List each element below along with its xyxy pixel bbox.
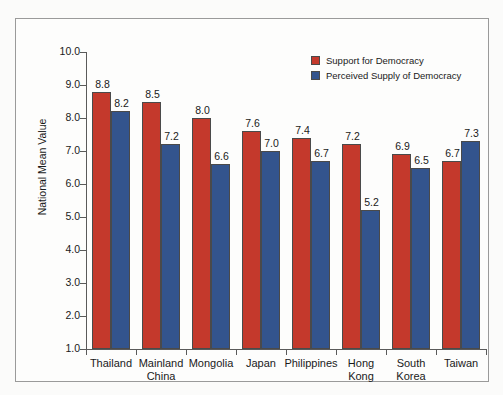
y-axis-tick-label: 10.0 bbox=[46, 46, 80, 57]
chart-legend: Support for Democracy Perceived Supply o… bbox=[311, 53, 461, 83]
y-axis-tick-label-wrap: 4.0 bbox=[40, 244, 80, 256]
y-axis-tick bbox=[80, 52, 87, 53]
x-axis-category-line: China bbox=[126, 370, 196, 383]
figure-root: National Mean Value 10.09.08.07.06.05.04… bbox=[0, 0, 503, 395]
bar-value-label: 7.2 bbox=[341, 131, 364, 142]
bar-value-label: 7.4 bbox=[291, 125, 314, 136]
y-axis-tick bbox=[80, 250, 87, 251]
y-axis-tick-label-wrap: 8.0 bbox=[40, 112, 80, 124]
y-axis-tick bbox=[80, 316, 87, 317]
x-axis-tick bbox=[486, 349, 487, 355]
x-axis-category-label: Taiwan bbox=[426, 357, 496, 370]
bar-perceived bbox=[261, 151, 280, 349]
y-axis-line bbox=[86, 52, 87, 350]
legend-item-support: Support for Democracy bbox=[311, 53, 461, 68]
bar-support bbox=[242, 131, 261, 349]
y-axis-tick-label: 5.0 bbox=[46, 211, 80, 222]
x-axis-tick bbox=[186, 349, 187, 355]
bar-value-label: 6.5 bbox=[410, 155, 433, 166]
bar-value-label: 8.0 bbox=[191, 105, 214, 116]
bar-value-label: 8.5 bbox=[141, 89, 164, 100]
y-axis-tick-label: 3.0 bbox=[46, 277, 80, 288]
bar-perceived bbox=[361, 210, 380, 349]
bar-value-label: 6.6 bbox=[210, 151, 233, 162]
y-axis-tick-label-wrap: 10.0 bbox=[40, 46, 80, 58]
y-axis-tick bbox=[80, 118, 87, 119]
bar-value-label: 8.2 bbox=[110, 98, 133, 109]
bar-support bbox=[442, 161, 461, 349]
bar-value-label: 5.2 bbox=[360, 197, 383, 208]
x-axis-tick bbox=[236, 349, 237, 355]
y-axis-tick-label-wrap: 7.0 bbox=[40, 145, 80, 157]
y-axis-tick-label: 8.0 bbox=[46, 112, 80, 123]
bar-perceived bbox=[161, 144, 180, 349]
y-axis-tick-label: 6.0 bbox=[46, 178, 80, 189]
y-axis-tick bbox=[80, 217, 87, 218]
x-axis-tick bbox=[386, 349, 387, 355]
x-axis-tick bbox=[336, 349, 337, 355]
x-axis-category-line: Taiwan bbox=[426, 357, 496, 370]
y-axis-tick bbox=[80, 85, 87, 86]
y-axis-tick-label: 2.0 bbox=[46, 310, 80, 321]
legend-label-perceived: Perceived Supply of Democracy bbox=[326, 70, 461, 81]
chart-frame: National Mean Value 10.09.08.07.06.05.04… bbox=[15, 18, 489, 382]
y-axis-tick-label-wrap: 6.0 bbox=[40, 178, 80, 190]
bar-value-label: 7.2 bbox=[160, 131, 183, 142]
x-axis-tick bbox=[136, 349, 137, 355]
bar-value-label: 7.0 bbox=[260, 138, 283, 149]
bar-support bbox=[392, 154, 411, 349]
bar-support bbox=[192, 118, 211, 349]
bar-value-label: 7.3 bbox=[460, 128, 483, 139]
bar-support bbox=[92, 92, 111, 349]
x-axis-tick bbox=[86, 349, 87, 355]
y-axis-tick-label: 7.0 bbox=[46, 145, 80, 156]
bar-support bbox=[292, 138, 311, 349]
bar-value-label: 8.8 bbox=[91, 79, 114, 90]
x-axis-tick bbox=[286, 349, 287, 355]
x-axis-category-line: Korea bbox=[376, 370, 446, 383]
bar-perceived bbox=[461, 141, 480, 349]
legend-swatch-support-icon bbox=[311, 56, 320, 65]
bar-perceived bbox=[411, 168, 430, 350]
x-axis-tick bbox=[436, 349, 437, 355]
bar-value-label: 6.7 bbox=[310, 148, 333, 159]
y-axis-tick bbox=[80, 151, 87, 152]
y-axis-tick-label-wrap: 1.0 bbox=[40, 343, 80, 355]
y-axis-tick bbox=[80, 283, 87, 284]
y-axis-tick-label: 4.0 bbox=[46, 244, 80, 255]
y-axis-tick-label-wrap: 2.0 bbox=[40, 310, 80, 322]
bar-value-label: 7.6 bbox=[241, 118, 264, 129]
y-axis-tick bbox=[80, 184, 87, 185]
legend-item-perceived: Perceived Supply of Democracy bbox=[311, 68, 461, 83]
bar-support bbox=[142, 102, 161, 350]
legend-label-support: Support for Democracy bbox=[326, 55, 424, 66]
bar-perceived bbox=[311, 161, 330, 349]
legend-swatch-perceived-icon bbox=[311, 71, 320, 80]
y-axis-tick-label-wrap: 3.0 bbox=[40, 277, 80, 289]
y-axis-tick-label: 9.0 bbox=[46, 79, 80, 90]
bar-perceived bbox=[111, 111, 130, 349]
bar-perceived bbox=[211, 164, 230, 349]
y-axis-tick-label: 1.0 bbox=[46, 343, 80, 354]
bar-support bbox=[342, 144, 361, 349]
y-axis-tick-label-wrap: 9.0 bbox=[40, 79, 80, 91]
y-axis-tick-label-wrap: 5.0 bbox=[40, 211, 80, 223]
bar-value-label: 6.9 bbox=[391, 141, 414, 152]
